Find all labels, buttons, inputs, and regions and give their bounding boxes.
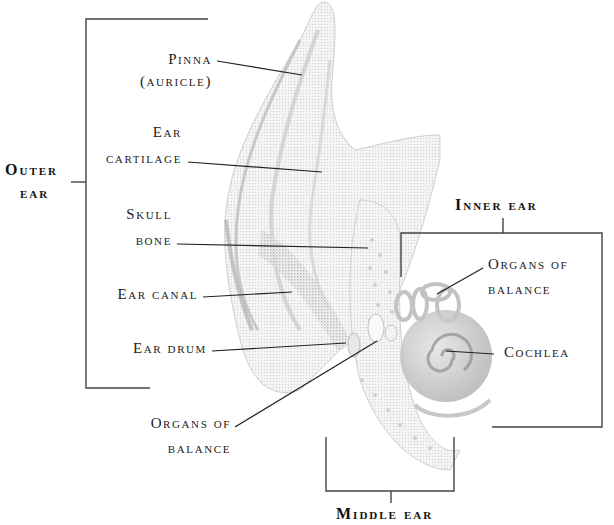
group-middle-ear: Middle ear: [336, 506, 433, 522]
label-skull-bone-1: Skull: [126, 207, 172, 222]
leader-ear-canal: [203, 292, 292, 297]
label-pinna: Pinna: [168, 52, 212, 67]
group-outer-ear-2: ear: [20, 185, 49, 201]
leader-cochlea: [446, 351, 494, 354]
label-cochlea: Cochlea: [504, 345, 570, 360]
label-organs-of-balance-right-2: balance: [488, 282, 551, 297]
label-organs-of-balance-left-2: balance: [168, 441, 231, 456]
middle-ear-bracket: [326, 437, 454, 491]
group-inner-ear: Inner ear: [455, 197, 538, 213]
leader-pinna: [217, 61, 302, 75]
label-organs-of-balance-left-1: Organs of: [151, 416, 231, 431]
label-ear-cartilage-2: cartilage: [106, 151, 182, 166]
leader-balance-left: [235, 341, 377, 427]
leader-ear-drum: [212, 343, 346, 351]
label-auricle: (auricle): [140, 74, 212, 89]
ear-diagram: Pinna (auricle) Ear cartilage Skull bone…: [0, 0, 614, 525]
leader-skull-bone: [177, 244, 368, 248]
label-ear-canal: Ear canal: [118, 287, 198, 302]
leader-cartilage: [188, 162, 322, 172]
label-skull-bone-2: bone: [136, 233, 172, 248]
label-ear-drum: Ear drum: [133, 341, 207, 356]
group-outer-ear-1: Outer: [5, 162, 58, 178]
leader-balance-right: [437, 268, 483, 294]
label-ear-cartilage-1: Ear: [153, 125, 182, 140]
label-organs-of-balance-right-1: Organs of: [488, 257, 568, 272]
